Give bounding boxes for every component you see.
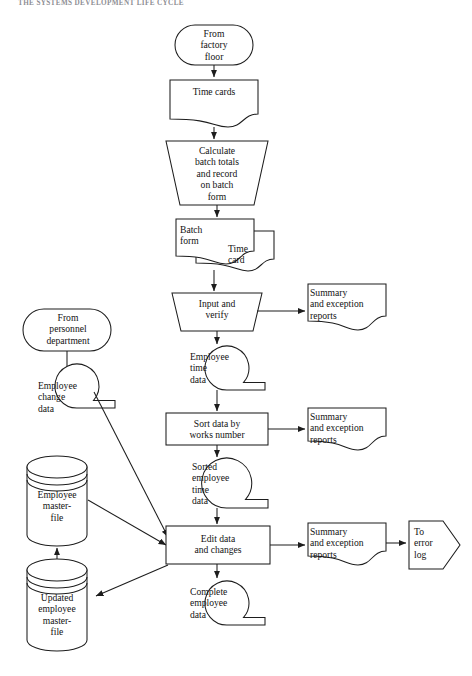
edge-changedata-to-edit: [94, 392, 168, 537]
flowchart-svg: [0, 0, 472, 676]
flowchart-canvas: [0, 0, 472, 676]
node-complete-employee-data: [205, 581, 265, 625]
edge-edit-to-updated: [96, 565, 168, 596]
node-summary-reports-2: [308, 408, 386, 450]
node-input-and-verify: [172, 293, 262, 331]
node-updated-masterfile: [27, 559, 87, 651]
node-time-cards: [170, 80, 258, 127]
edge-masterfile-to-edit: [88, 500, 166, 545]
node-from-factory-floor: [175, 25, 253, 65]
node-edit-data: [166, 526, 270, 564]
node-sort-data: [166, 413, 268, 445]
node-to-error-log: [409, 521, 460, 569]
node-from-personnel: [23, 309, 111, 351]
node-summary-reports-1: [308, 284, 386, 330]
node-employee-change-data: [55, 364, 115, 408]
node-employee-masterfile: [27, 456, 87, 546]
node-calculate-batch: [166, 141, 268, 205]
node-sorted-time-data: [202, 458, 268, 508]
node-summary-reports-3: [308, 523, 386, 565]
node-employee-time-data: [205, 346, 265, 390]
